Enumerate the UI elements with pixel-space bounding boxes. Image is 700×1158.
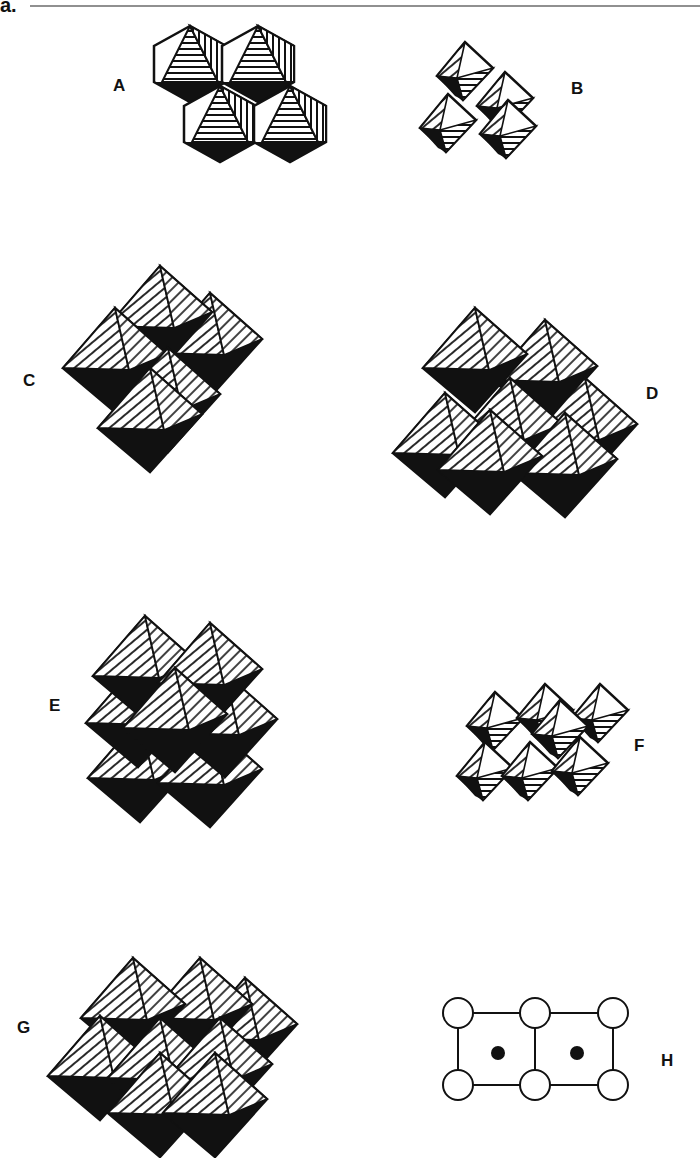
label-e: E bbox=[49, 696, 60, 716]
panel-d-structure bbox=[393, 308, 637, 517]
open-atom-circle bbox=[520, 998, 550, 1028]
open-atom-circle bbox=[443, 998, 473, 1028]
polyhedra-figure bbox=[0, 0, 700, 1158]
open-atom-circle bbox=[520, 1070, 550, 1100]
filled-atom-dot bbox=[491, 1046, 505, 1060]
panel-c-structure bbox=[63, 266, 262, 472]
label-c: C bbox=[23, 371, 35, 391]
label-g: G bbox=[17, 1018, 30, 1038]
panel-h-unit-cell bbox=[443, 998, 628, 1100]
panel-f-structure bbox=[457, 684, 628, 800]
filled-atom-dot bbox=[570, 1046, 584, 1060]
label-d: D bbox=[646, 384, 658, 404]
panel-a-structure bbox=[154, 26, 326, 162]
label-a: A bbox=[113, 76, 125, 96]
open-atom-circle bbox=[598, 1070, 628, 1100]
label-b: B bbox=[571, 79, 583, 99]
open-atom-circle bbox=[598, 998, 628, 1028]
label-h: H bbox=[661, 1051, 673, 1071]
open-atom-circle bbox=[443, 1070, 473, 1100]
panel-g-structure bbox=[48, 958, 297, 1157]
panel-b-structure bbox=[420, 42, 536, 158]
label-f: F bbox=[634, 736, 644, 756]
panel-e-structure bbox=[86, 616, 277, 827]
